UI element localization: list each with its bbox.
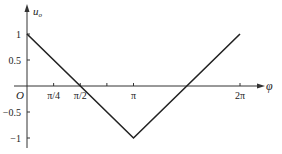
x-tick-label: π xyxy=(131,90,136,101)
x-tick-label: π/4 xyxy=(47,90,60,101)
x-tick-label: 2π xyxy=(235,90,245,101)
y-tick-label: −0.5 xyxy=(3,107,21,118)
x-axis-arrow-icon xyxy=(257,84,265,89)
axes xyxy=(14,4,265,148)
triangle-wave-chart: π/4π/2π2π10.5−0.5−1 uo φ O xyxy=(0,0,282,154)
origin-label: O xyxy=(16,89,24,101)
x-axis-label: φ xyxy=(266,79,273,93)
y-axis-label: uo xyxy=(33,5,43,19)
x-tick-label: π/2 xyxy=(74,90,87,101)
y-tick-label: −1 xyxy=(10,133,21,144)
y-axis-arrow-icon xyxy=(25,4,30,12)
y-tick-label: 1 xyxy=(16,29,21,40)
y-tick-label: 0.5 xyxy=(9,55,22,66)
